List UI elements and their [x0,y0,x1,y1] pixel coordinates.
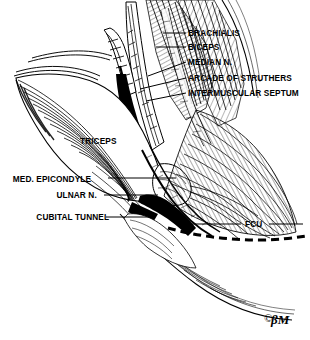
label-brachialis: BRACHIALIS [188,28,240,38]
label-med-epicondyle: MED. EPICONDYLE [13,174,91,184]
anatomy-illustration: © βM [0,0,310,340]
label-cubital-tunnel: CUBITAL TUNNEL [36,212,109,222]
label-median-nerve: MEDIAN N. [188,57,232,67]
label-arcade-of-struthers: ARCADE OF STRUTHERS [188,73,292,83]
label-fcu: FCU [245,219,262,229]
anatomy-figure: © βM BRACHIALIS BICEPS MEDIAN N. ARCADE … [0,0,310,340]
label-biceps: BICEPS [188,42,219,52]
label-intermuscular-septum: INTERMUSCULAR SEPTUM [188,88,299,98]
label-ulnar-nerve: ULNAR N. [57,190,97,200]
label-triceps: TRICEPS [80,136,117,146]
svg-text:βM: βM [270,312,290,327]
